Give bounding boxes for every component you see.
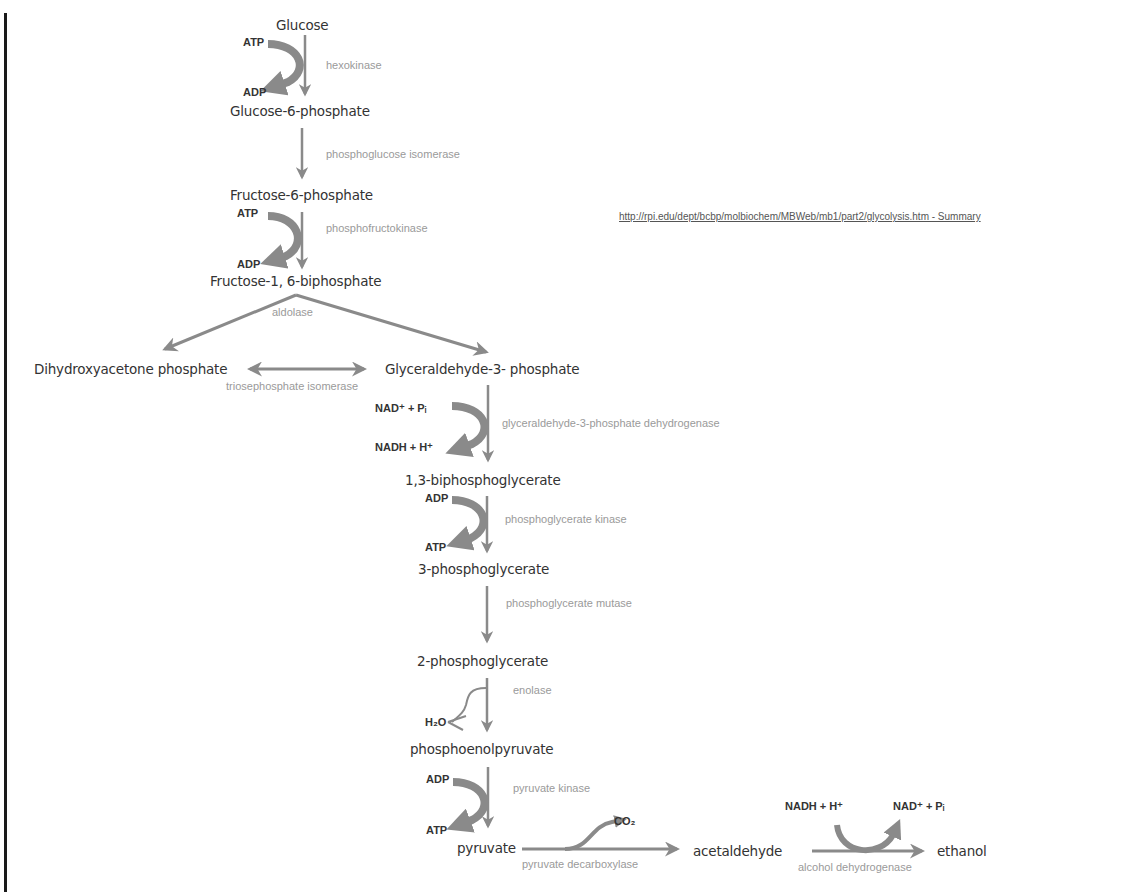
- curved-arrow-adp-atp-2: [453, 782, 485, 826]
- curved-arrow-atp-adp-1: [268, 44, 300, 88]
- metabolite-glucose-6-phosphate: Glucose-6-phosphate: [230, 103, 370, 119]
- metabolite-acetaldehyde: acetaldehyde: [693, 843, 782, 859]
- enzyme-alcohol-dehydrogenase: alcohol dehydrogenase: [798, 861, 912, 873]
- pathway-arrows: [0, 0, 1126, 892]
- cofactor-nad-pi-in-gapdh: NAD⁺ + Pᵢ: [375, 402, 426, 415]
- metabolite-fructose-6-phosphate: Fructose-6-phosphate: [230, 187, 373, 203]
- cofactor-atp-in-hexokinase: ATP: [243, 36, 264, 48]
- metabolite-fructose-1-6-biphosphate: Fructose-1, 6-biphosphate: [210, 273, 381, 289]
- curved-arrow-nad-nadh: [452, 406, 484, 450]
- enzyme-phosphoglucose-isomerase: phosphoglucose isomerase: [326, 148, 460, 160]
- metabolite-pyruvate: pyruvate: [457, 840, 516, 856]
- cofactor-atp-out-pk: ATP: [426, 824, 447, 836]
- cofactor-nadh-in-adh: NADH + H⁺: [785, 800, 843, 813]
- cofactor-adp-in-pk: ADP: [426, 773, 449, 785]
- arrow-aldolase-left: [165, 295, 296, 349]
- cofactor-h2o-out-enolase: H₂O: [425, 716, 446, 728]
- enzyme-hexokinase: hexokinase: [326, 59, 382, 71]
- metabolite-phosphoenolpyruvate: phosphoenolpyruvate: [410, 741, 553, 757]
- cofactor-adp-out-hexokinase: ADP: [243, 86, 266, 98]
- cofactor-nadh-out-gapdh: NADH + H⁺: [375, 441, 433, 454]
- cofactor-adp-out-pfk: ADP: [237, 258, 260, 270]
- metabolite-3-phosphoglycerate: 3-phosphoglycerate: [418, 561, 549, 577]
- cofactor-nad-pi-out-adh: NAD⁺ + Pᵢ: [893, 800, 944, 813]
- enzyme-glyceraldehyde-3-phosphate-dehydrogenase: glyceraldehyde-3-phosphate dehydrogenase: [502, 417, 720, 429]
- metabolite-ethanol: ethanol: [937, 843, 987, 859]
- metabolite-glyceraldehyde-3-phosphate: Glyceraldehyde-3- phosphate: [385, 361, 579, 377]
- cofactor-co2-out-pdc: CO₂: [614, 815, 635, 827]
- enzyme-phosphoglycerate-mutase: phosphoglycerate mutase: [506, 597, 632, 609]
- metabolite-2-phosphoglycerate: 2-phosphoglycerate: [417, 653, 548, 669]
- arrow-aldolase-right: [296, 295, 486, 352]
- enzyme-pyruvate-kinase: pyruvate kinase: [513, 782, 590, 794]
- enzyme-aldolase: aldolase: [272, 306, 313, 318]
- enzyme-triosephosphate-isomerase: triosephosphate isomerase: [226, 380, 358, 392]
- metabolite-dihydroxyacetone-phosphate: Dihydroxyacetone phosphate: [34, 361, 227, 377]
- metabolite-1-3-biphosphoglycerate: 1,3-biphosphoglycerate: [405, 472, 561, 488]
- curved-arrow-adp-atp-1: [452, 500, 484, 543]
- enzyme-phosphoglycerate-kinase: phosphoglycerate kinase: [505, 513, 627, 525]
- cofactor-atp-out-pgk: ATP: [425, 541, 446, 553]
- enzyme-pyruvate-decarboxylase: pyruvate decarboxylase: [522, 858, 638, 870]
- curved-arrow-h2o: [452, 688, 486, 722]
- cofactor-adp-in-pgk: ADP: [425, 492, 448, 504]
- enzyme-phosphofructokinase: phosphofructokinase: [326, 222, 428, 234]
- metabolite-glucose: Glucose: [276, 17, 328, 33]
- curved-arrow-nadh-nad: [837, 825, 897, 850]
- curved-arrow-atp-adp-2: [268, 216, 298, 261]
- source-link[interactable]: http://rpi.edu/dept/bcbp/molbiochem/MBWe…: [619, 211, 981, 222]
- enzyme-enolase: enolase: [513, 684, 552, 696]
- cofactor-atp-in-pfk: ATP: [237, 207, 258, 219]
